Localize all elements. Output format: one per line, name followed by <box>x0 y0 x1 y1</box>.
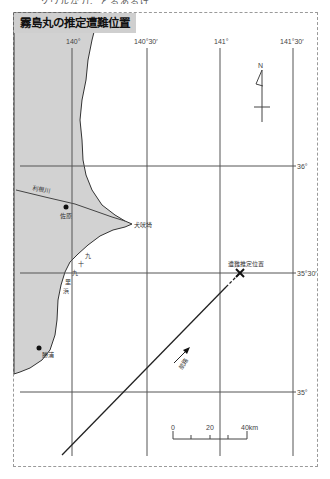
kujukuri-char-4: 里 <box>65 278 71 285</box>
latitude-label-35-30: 35°30′ <box>297 270 317 277</box>
place-sawara: 佐原 <box>60 212 72 220</box>
map-canvas: 140° 140°30′ 141° 141°30′ 36° 35°30′ 35°… <box>0 0 330 479</box>
place-katsuura: 勝浦 <box>42 351 54 359</box>
kujukuri-char-2: 十 <box>78 260 84 268</box>
wreck-position-label: 遭難推定位置 <box>228 260 264 268</box>
place-inubosaki: 犬吠埼 <box>134 221 152 229</box>
kujukuri-char-3: 九 <box>72 269 78 277</box>
north-arrow-icon: N <box>254 62 270 122</box>
kujukuri-char-5: 浜 <box>63 287 69 295</box>
kujukuri-char-1: 九 <box>85 252 91 260</box>
longitude-label-141-30: 141°30′ <box>280 38 304 45</box>
longitude-label-140: 140° <box>66 38 81 45</box>
compass-n-label: N <box>258 62 263 69</box>
latitude-label-35: 35° <box>297 389 308 396</box>
longitude-label-141: 141° <box>214 38 229 45</box>
scale-label-0: 0 <box>171 424 175 431</box>
scale-label-20: 20 <box>206 424 214 431</box>
route-label: 航路 <box>177 357 190 371</box>
longitude-label-140-30: 140°30′ <box>134 38 158 45</box>
scale-label-40km: 40km <box>241 424 258 431</box>
katsuura-dot <box>37 346 42 351</box>
scale-bar: 0 20 40km <box>171 424 258 439</box>
sawara-dot <box>64 205 69 210</box>
map-title: 霧島丸の推定遭難位置 <box>14 13 136 33</box>
route-line <box>62 287 226 455</box>
latitude-label-36: 36° <box>297 163 308 170</box>
